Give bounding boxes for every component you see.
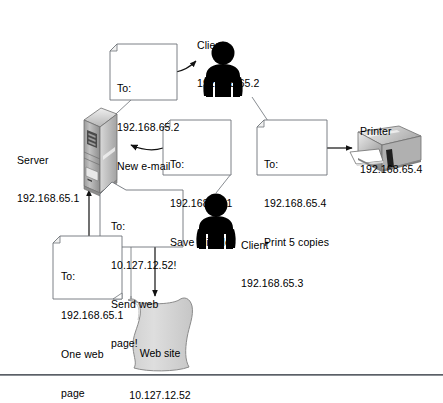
note-text-oneweb: To: 192.168.65.1 One web page <box>61 244 124 403</box>
node-label-line2: 192.168.65.4 <box>360 163 423 176</box>
node-label-client1: Client 192.168.65.2 <box>197 14 260 114</box>
note-line-3: One web <box>61 348 124 361</box>
note-line-2: 192.168.65.4 <box>264 197 329 210</box>
node-label-line2: 192.168.65.1 <box>17 192 80 205</box>
node-label-printer: Printer 192.168.65.4 <box>360 100 423 200</box>
node-label-line1: Printer <box>360 125 423 138</box>
note-line-1: To: <box>170 158 233 171</box>
note-text-print: To: 192.168.65.4 Print 5 copies <box>264 132 329 275</box>
node-label-server: Server 192.168.65.1 <box>17 129 80 229</box>
note-line-3: Print 5 copies <box>264 236 329 249</box>
note-line-4: page <box>61 387 124 400</box>
note-line-1: To: <box>111 220 177 233</box>
note-line-1: To: <box>117 82 180 95</box>
node-label-line2: 192.168.65.2 <box>197 77 260 90</box>
note-line-2: 192.168.65.1 <box>170 197 233 210</box>
note-line-1: To: <box>61 270 124 283</box>
note-line-1: To: <box>264 158 329 171</box>
node-label-line2: 10.127.12.52 <box>128 388 192 402</box>
node-label-line1: Server <box>17 154 80 167</box>
note-text-savefile: To: 192.168.65.1 Save this file <box>170 132 233 275</box>
node-label-line2: 192.168.65.3 <box>241 277 304 290</box>
note-line-3: Save this file <box>170 236 233 249</box>
footer-divider <box>0 374 443 376</box>
node-label-line1: Client <box>197 39 260 52</box>
note-line-2: 192.168.65.1 <box>61 309 124 322</box>
